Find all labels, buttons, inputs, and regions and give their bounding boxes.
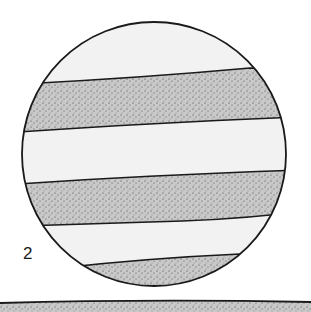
figure-label: 2 xyxy=(23,244,32,264)
planet-illustration xyxy=(0,0,311,312)
